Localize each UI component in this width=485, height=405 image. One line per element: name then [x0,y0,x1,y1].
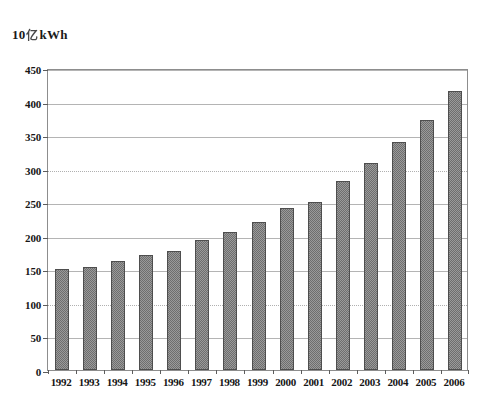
x-axis-tick [273,370,274,374]
bar-1998 [223,232,237,370]
x-axis-label-1999: 1999 [247,376,268,388]
bar-2003 [364,163,378,370]
x-axis-label-2002: 2002 [331,376,352,388]
bar-2000 [280,208,294,370]
y-axis-tick-label: 250 [25,198,41,210]
x-axis-label-2006: 2006 [444,376,465,388]
x-axis-tick [76,370,77,374]
bar-2005 [420,120,434,370]
bars-group [48,70,467,370]
x-axis-tick [48,370,49,374]
x-axis-tick [441,370,442,374]
x-axis-tick [468,370,469,374]
x-axis-label-1993: 1993 [79,376,100,388]
x-axis-tick [301,370,302,374]
y-axis-tick-label: 100 [25,299,41,311]
bar-2002 [336,181,350,370]
plot-area: 050100150200250300350400450 [47,69,468,371]
x-axis-tick [329,370,330,374]
unit-exponent-glyph: 亿 [26,28,38,44]
unit-prefix: 10 [12,27,25,42]
y-axis-tick-label: 150 [25,265,41,277]
y-axis-tick-label: 0 [36,366,41,378]
x-axis-tick [160,370,161,374]
y-axis-unit-title: 10亿kWh [12,27,68,43]
x-axis-label-2004: 2004 [387,376,408,388]
bar-1996 [167,251,181,370]
bar-1994 [111,261,125,370]
y-axis-tick-label: 450 [25,64,41,76]
bar-1992 [55,269,69,370]
x-axis-tick [357,370,358,374]
bar-2001 [308,202,322,370]
bar-2006 [448,91,462,370]
x-axis-tick [244,370,245,374]
x-axis-label-1998: 1998 [219,376,240,388]
x-axis-tick [104,370,105,374]
bar-chart-figure: 10亿kWh 050100150200250300350400450 19921… [0,0,485,405]
x-axis-tick [188,370,189,374]
x-axis-tick [413,370,414,374]
bar-1995 [139,255,153,370]
x-axis-label-1992: 1992 [51,376,72,388]
x-axis-label-1995: 1995 [135,376,156,388]
x-axis-tick [132,370,133,374]
unit-suffix: kWh [40,27,68,42]
x-axis-label-1997: 1997 [191,376,212,388]
x-axis-tick [216,370,217,374]
y-axis-tick-label: 400 [25,98,41,110]
bar-1997 [195,240,209,370]
bar-1999 [252,222,266,370]
x-axis-label-1996: 1996 [163,376,184,388]
bar-2004 [392,142,406,370]
x-axis-label-1994: 1994 [107,376,128,388]
x-axis-label-2000: 2000 [275,376,296,388]
y-axis-tick-label: 350 [25,131,41,143]
x-axis-tick [385,370,386,374]
y-axis-tick-label: 300 [25,165,41,177]
x-axis-label-2003: 2003 [359,376,380,388]
bar-1993 [83,267,97,370]
y-axis-tick-label: 50 [30,332,41,344]
x-axis-label-2001: 2001 [303,376,324,388]
y-axis-tick-label: 200 [25,232,41,244]
x-axis-label-2005: 2005 [415,376,436,388]
